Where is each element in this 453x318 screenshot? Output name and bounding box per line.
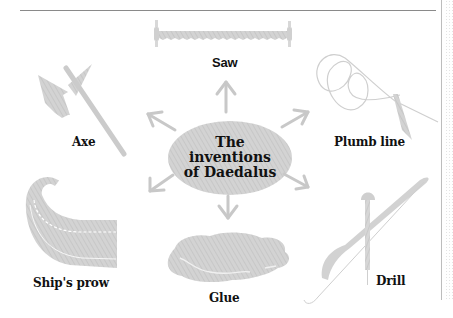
- arrow-to-axe: [148, 112, 175, 130]
- label-drill: Drill: [376, 274, 405, 288]
- plumb-line-icon: [317, 55, 438, 140]
- center-title: The inventions of Daedalus: [168, 135, 292, 180]
- center-title-line-1: The: [168, 135, 292, 150]
- label-ship-prow: Ship's prow: [33, 276, 109, 290]
- glue-icon: [168, 232, 289, 282]
- label-axe: Axe: [72, 135, 96, 149]
- label-plumb-line: Plumb line: [334, 135, 405, 149]
- label-saw: Saw: [212, 55, 237, 70]
- ship-prow-icon: [26, 177, 117, 268]
- center-title-line-3: of Daedalus: [168, 165, 292, 180]
- center-title-line-2: inventions: [168, 150, 292, 165]
- drill-icon: [304, 177, 429, 303]
- arrow-to-glue: [219, 196, 237, 218]
- label-glue: Glue: [209, 291, 239, 305]
- arrow-to-saw: [217, 82, 235, 112]
- saw-icon: [154, 20, 292, 47]
- arrow-to-plumb-line: [282, 110, 308, 127]
